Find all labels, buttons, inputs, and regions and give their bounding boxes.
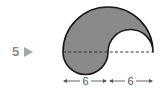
arrowhead-left-icon <box>109 79 113 83</box>
dimension-left: 6 <box>63 75 107 87</box>
dimension-label-right: 6 <box>127 75 133 87</box>
arrowhead-left-icon <box>63 79 67 83</box>
geometry-figure: 6 6 <box>0 0 162 98</box>
shaded-region <box>63 7 153 75</box>
dimension-right: 6 <box>109 75 153 87</box>
arrowhead-right-icon <box>103 79 107 83</box>
dimension-label-left: 6 <box>82 75 88 87</box>
arrowhead-right-icon <box>149 79 153 83</box>
